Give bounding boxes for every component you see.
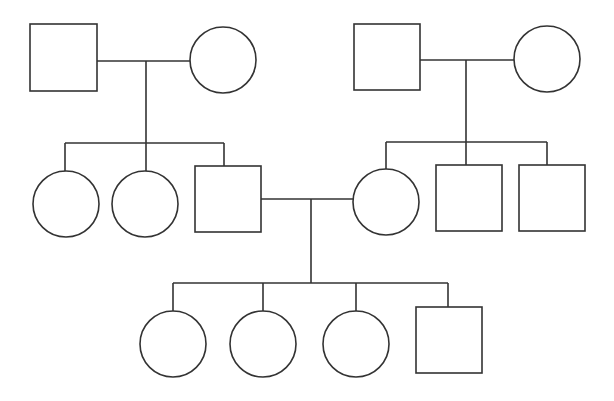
male-square-g1-male-right <box>354 24 420 90</box>
female-circle-g2-female-1 <box>33 171 99 237</box>
male-square-g2-male-5 <box>436 165 502 231</box>
male-square-g2-male-6 <box>519 165 585 231</box>
individuals <box>30 24 585 377</box>
female-circle-g2-female-2 <box>112 171 178 237</box>
female-circle-g1-female-right <box>514 26 580 92</box>
female-circle-g3-female-3 <box>323 311 389 377</box>
female-circle-g3-female-1 <box>140 311 206 377</box>
male-square-g3-male-4 <box>416 307 482 373</box>
female-circle-g2-female-4 <box>353 169 419 235</box>
male-square-g2-male-3 <box>195 166 261 232</box>
pedigree-chart <box>0 0 614 401</box>
male-square-g1-male-left <box>30 24 97 91</box>
female-circle-g1-female-left <box>190 27 256 93</box>
female-circle-g3-female-2 <box>230 311 296 377</box>
